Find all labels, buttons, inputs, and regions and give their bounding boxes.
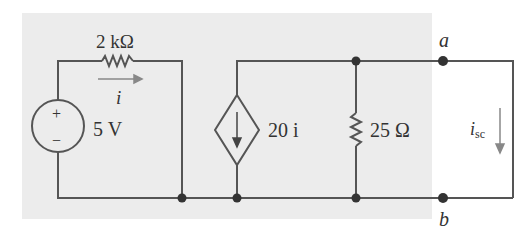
terminal-a-node bbox=[438, 56, 448, 66]
node bbox=[233, 194, 242, 203]
resistor-2k-label: 2 kΩ bbox=[96, 31, 134, 52]
node bbox=[178, 194, 187, 203]
circuit-diagram: + − 2 kΩ i 5 V 20 i 25 Ω a b isc bbox=[0, 0, 531, 238]
minus-sign: − bbox=[52, 132, 61, 149]
terminal-a-label: a bbox=[439, 29, 449, 51]
source-label: 5 V bbox=[93, 118, 123, 140]
terminal-b-label: b bbox=[439, 208, 449, 230]
dep-source-label: 20 i bbox=[268, 119, 299, 141]
node bbox=[352, 57, 361, 66]
shaded-background bbox=[22, 13, 432, 219]
isc-label: isc bbox=[470, 119, 485, 141]
node bbox=[352, 194, 361, 203]
current-i-label: i bbox=[116, 87, 121, 108]
arrow-down-icon bbox=[496, 144, 504, 153]
terminal-b-node bbox=[438, 193, 448, 203]
resistor-25-label: 25 Ω bbox=[370, 119, 410, 141]
plus-sign: + bbox=[52, 105, 61, 122]
